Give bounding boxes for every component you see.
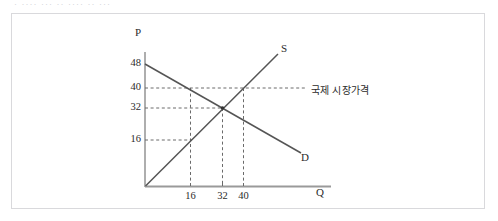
y-tick-label-48: 48 xyxy=(111,57,141,68)
x-tick-label-40: 40 xyxy=(231,190,256,201)
y-axis-title: P xyxy=(135,26,141,38)
supply-curve-label: S xyxy=(281,42,287,54)
y-tick-label-16: 16 xyxy=(111,133,141,144)
figure-root: · ···· ··· ·· ···· ·· ··· xyxy=(0,0,498,221)
equilibrium-point-marker xyxy=(221,106,225,110)
demand-curve-label: D xyxy=(301,151,309,163)
supply-curve xyxy=(146,54,279,186)
world-price-annotation: 국제 시장가격 xyxy=(311,82,369,97)
x-tick-label-16: 16 xyxy=(178,190,203,201)
supply-demand-plot xyxy=(0,0,498,221)
y-tick-label-40: 40 xyxy=(111,81,141,92)
x-axis-title: Q xyxy=(316,186,324,198)
chart-canvas xyxy=(0,0,498,221)
y-tick-label-32: 32 xyxy=(111,101,141,112)
